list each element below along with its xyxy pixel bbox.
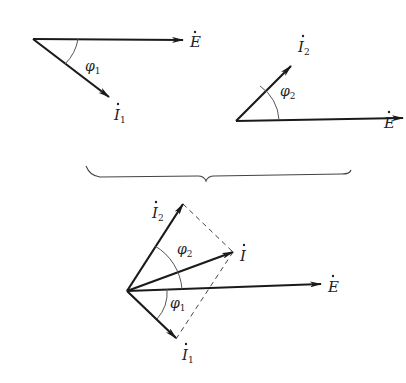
vector-i-arrow (127, 252, 233, 291)
top-right-diagram: φ2 I2 E (236, 35, 403, 132)
dot-e (194, 31, 196, 33)
vector-i1-arrow (127, 291, 176, 338)
dot-e (332, 275, 334, 277)
angle-phi1-arc (65, 39, 78, 64)
angle-phi2-arc (260, 86, 279, 120)
label-i1: I1 (181, 346, 194, 365)
angle-phi1-label: φ1 (170, 295, 186, 313)
vector-e-arrow (127, 284, 321, 291)
label-e: E (383, 114, 395, 132)
dashed-i1-to-i (176, 252, 233, 339)
angle-phi1-arc (157, 289, 167, 319)
dot-i2 (302, 35, 304, 37)
dot-i1 (117, 103, 119, 105)
dot-e (388, 111, 390, 113)
dot-i (243, 244, 245, 246)
label-i: I (239, 247, 247, 265)
top-left-diagram: φ1 E I1 (33, 31, 201, 125)
vector-e-arrow (33, 39, 183, 40)
label-i2: I2 (151, 204, 164, 223)
label-i2: I2 (297, 38, 310, 57)
vector-e-arrow (236, 118, 403, 121)
phasor-diagram: φ1 E I1 φ2 I2 E φ2 φ1 I2 I E (0, 0, 406, 383)
angle-phi1-label: φ1 (85, 58, 101, 76)
dot-i1 (185, 343, 187, 345)
label-i1: I1 (113, 106, 126, 125)
dot-i2 (155, 201, 157, 203)
bottom-diagram: φ2 φ1 I2 I E I1 (127, 201, 339, 365)
angle-phi2-label: φ2 (280, 83, 296, 101)
label-e: E (327, 278, 339, 296)
angle-phi2-label: φ2 (177, 241, 193, 259)
label-e: E (189, 33, 201, 51)
combining-brace (86, 166, 351, 181)
dashed-i2-to-i (183, 204, 233, 252)
